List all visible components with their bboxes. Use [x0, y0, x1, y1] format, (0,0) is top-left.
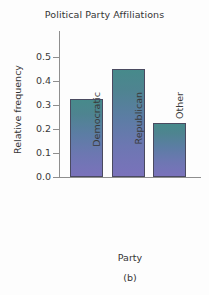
x-axis-tick-label: Democratic — [91, 92, 102, 182]
bar-chart-figure: Political Party Affiliations Relative fr… — [0, 0, 209, 295]
x-axis-label: Party — [59, 252, 201, 263]
y-axis-tick-label: 0.5 — [17, 51, 51, 62]
y-axis-tick-label: 0.3 — [17, 99, 51, 110]
y-axis-tick-label: 0.4 — [17, 75, 51, 86]
y-axis-tick-label: 0.0 — [17, 171, 51, 182]
chart-title: Political Party Affiliations — [0, 9, 209, 20]
x-axis-tick-label: Republican — [133, 92, 144, 182]
x-axis-tick-label: Other — [174, 92, 185, 182]
y-axis-tick-label: 0.2 — [17, 123, 51, 134]
figure-caption: (b) — [59, 272, 201, 283]
y-axis-line — [59, 31, 60, 178]
y-axis-tick-label: 0.1 — [17, 147, 51, 158]
